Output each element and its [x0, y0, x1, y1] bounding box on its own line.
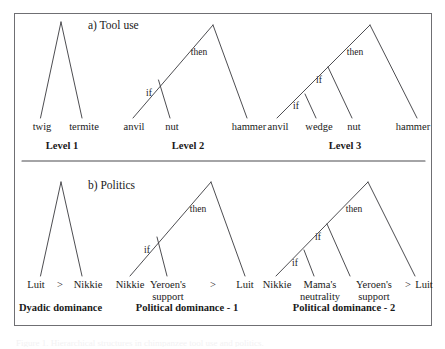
tree-label-political-dominance-1: Political dominance - 1 — [136, 302, 238, 313]
leaf-luit-political-1: Luit — [236, 279, 254, 290]
figure-root: a) Tool use twig termite Level 1 then if… — [0, 0, 445, 349]
tree-label-level-1: Level 1 — [46, 140, 78, 151]
leaf-nikkie-political-2: Nikkie — [263, 279, 292, 290]
connective-then-political-2: then — [346, 205, 362, 215]
connective-then-political-1: then — [190, 205, 206, 215]
leaf-nikkie-dyadic: Nikkie — [74, 279, 103, 290]
leaf-yeroens-support-political-2: Yeroen's support — [346, 279, 402, 303]
leaf-luit-political-2: Luit — [415, 279, 433, 290]
figure-caption-fragment: Figure 1. Hierarchical structures in chi… — [16, 338, 428, 347]
leaf-luit-dyadic: Luit — [27, 279, 45, 290]
leaf-mamas-neutrality-political-2: Mama's neutrality — [292, 279, 348, 303]
relation-gt-political-1: > — [210, 279, 216, 290]
tree-label-dyadic-dominance: Dyadic dominance — [19, 302, 102, 313]
connective-if-inner-level-3: if — [293, 102, 299, 112]
leaf-nut-level-3: nut — [347, 121, 360, 132]
section-title-politics: b) Politics — [88, 179, 135, 191]
connective-if-inner-political-2: if — [292, 259, 298, 269]
tree-label-level-2: Level 2 — [172, 140, 204, 151]
connective-if-outer-level-3: if — [316, 76, 322, 86]
connective-if-level-2: if — [146, 89, 152, 99]
leaf-hammer-level-2: hammer — [232, 121, 266, 132]
leaf-wedge-level-3: wedge — [305, 121, 332, 132]
leaf-nut-level-2: nut — [165, 121, 178, 132]
leaf-anvil-level-3: anvil — [268, 121, 289, 132]
leaf-twig: twig — [33, 121, 52, 132]
connective-then-level-3: then — [347, 48, 363, 58]
leaf-hammer-level-3: hammer — [396, 121, 430, 132]
leaf-anvil-level-2: anvil — [124, 121, 145, 132]
tree-label-political-dominance-2: Political dominance - 2 — [293, 302, 395, 313]
relation-gt-dyadic: > — [57, 279, 63, 290]
leaf-yeroens-support-political-1: Yeroen's support — [140, 279, 196, 303]
tree-label-level-3: Level 3 — [329, 140, 361, 151]
section-title-tool-use: a) Tool use — [88, 19, 139, 31]
leaf-termite: termite — [69, 121, 99, 132]
connective-if-political-1: if — [144, 246, 150, 256]
relation-gt-political-2: > — [405, 279, 411, 290]
connective-then-level-2: then — [191, 48, 207, 58]
connective-if-outer-political-2: if — [315, 233, 321, 243]
